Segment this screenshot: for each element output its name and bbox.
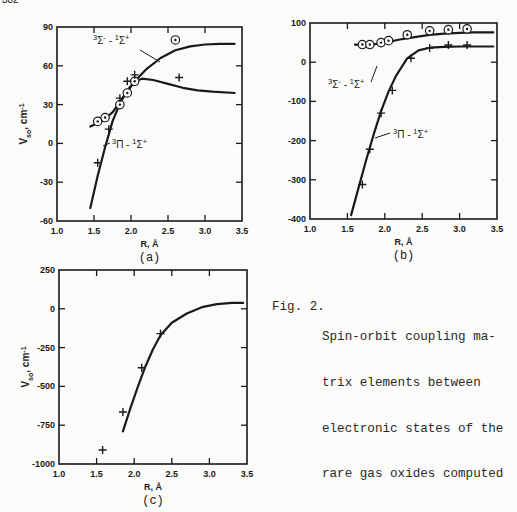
x-tick-label: 1.0	[53, 469, 66, 479]
cross-marker	[426, 44, 434, 52]
caption-line: Spin-orbit coupling ma-	[322, 330, 511, 345]
y-tick-label: -200	[288, 136, 306, 146]
y-tick-label: -500	[37, 381, 55, 391]
y-tick-label: -750	[37, 420, 55, 430]
y-tick-label: -60	[40, 216, 53, 226]
figure-label: Fig. 2.	[272, 300, 325, 315]
x-tick-label: 3.0	[453, 224, 466, 234]
panel-label: (a)	[139, 251, 161, 265]
y-tick-label: 250	[40, 265, 55, 275]
cross-marker	[366, 145, 374, 153]
cross-marker	[99, 446, 107, 454]
x-tick-label: 3.0	[199, 226, 212, 236]
x-axis-label: R, Å	[395, 237, 414, 247]
series-line	[355, 32, 493, 45]
x-tick-label: 2.0	[128, 469, 141, 479]
cross-marker	[463, 41, 471, 49]
y-tick-label: 60	[43, 61, 53, 71]
y-tick-label: 0	[50, 304, 55, 314]
x-tick-label: 2.5	[416, 224, 429, 234]
x-tick-label: 1.0	[51, 226, 64, 236]
x-tick-label: 2.5	[166, 469, 179, 479]
chart-panel-c: 1.01.52.02.53.03.52500-250-500-750-1000R…	[20, 265, 254, 508]
x-axis-label: R, Å	[141, 239, 160, 249]
y-tick-label: 30	[43, 100, 53, 110]
plot-frame	[59, 270, 247, 464]
y-tick-label: -250	[37, 343, 55, 353]
x-tick-label: 3.5	[491, 224, 504, 234]
y-axis-label: Vso, cm-1	[18, 103, 32, 144]
y-tick-label: 100	[291, 18, 306, 28]
cross-marker	[407, 54, 415, 62]
caption-line: rare gas oxides computed	[322, 467, 511, 482]
x-tick-label: 3.5	[236, 226, 249, 236]
curve-annotation: 3Π - 1Σ+	[393, 127, 429, 141]
panel-label: (c)	[142, 494, 164, 508]
panel-label: (b)	[393, 249, 415, 263]
series-line	[90, 44, 234, 127]
cross-marker	[175, 73, 183, 81]
cross-marker	[123, 77, 131, 85]
chart-panel-b: 1.01.52.02.53.03.51000-100-200-300-400R,…	[288, 18, 503, 263]
figure-caption: Fig. 2. Spin-orbit coupling ma- trix ele…	[272, 300, 287, 346]
caption-line: electronic states of the	[322, 422, 511, 437]
plot-frame	[310, 23, 497, 219]
x-tick-label: 3.0	[203, 469, 216, 479]
y-axis-label: Vso, cm-1	[20, 346, 34, 387]
curve-annotation: 3Σ- - 1Σ+	[328, 77, 365, 91]
cross-marker	[119, 408, 127, 416]
curve-annotation: 3Π - 1Σ+	[112, 137, 148, 151]
chart-panel-a: 1.01.52.02.53.03.59060300-30-60R, Å(a)Vs…	[18, 22, 249, 265]
cross-marker	[377, 109, 385, 117]
y-tick-label: 0	[48, 138, 53, 148]
curve-annotation: 3Σ- - 1Σ+	[93, 33, 130, 47]
caption-line: trix elements between	[322, 376, 511, 391]
y-tick-label: -400	[288, 214, 306, 224]
x-tick-label: 2.0	[125, 226, 138, 236]
y-tick-label: 90	[43, 22, 53, 32]
x-tick-label: 1.5	[90, 469, 103, 479]
y-tick-label: -30	[40, 177, 53, 187]
annotation-leader	[371, 66, 377, 82]
x-tick-label: 1.5	[341, 224, 354, 234]
x-tick-label: 2.0	[379, 224, 392, 234]
x-tick-label: 3.5	[241, 469, 254, 479]
x-tick-label: 1.0	[304, 224, 317, 234]
x-tick-label: 2.5	[162, 226, 175, 236]
annotation-leader	[140, 50, 160, 62]
y-tick-label: -1000	[32, 459, 55, 469]
x-axis-label: R, Å	[144, 482, 163, 492]
x-tick-label: 1.5	[88, 226, 101, 236]
y-tick-label: 0	[301, 57, 306, 67]
y-tick-label: -100	[288, 96, 306, 106]
y-tick-label: -300	[288, 175, 306, 185]
annotation-leader	[375, 133, 390, 138]
caption-body: Spin-orbit coupling ma- trix elements be…	[322, 300, 511, 512]
